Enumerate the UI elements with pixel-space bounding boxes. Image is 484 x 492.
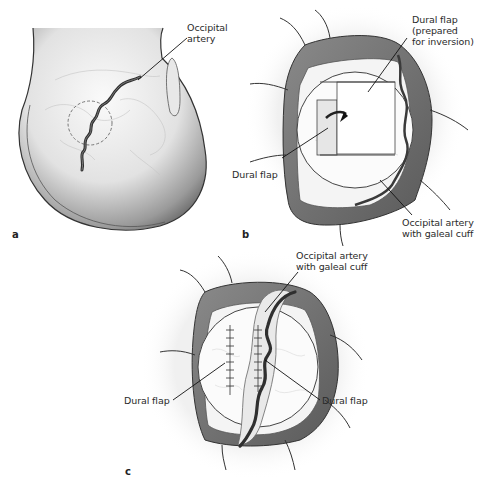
- label-line: Dural flap: [412, 14, 474, 25]
- label-dural-flap-prepared: Dural flap (prepared for inversion): [412, 14, 474, 47]
- label-line: (prepared: [412, 25, 474, 36]
- label-occipital-artery-c: Occipital artery with galeal cuff: [296, 250, 368, 272]
- label-dural-flap-b: Dural flap: [232, 169, 278, 180]
- label-line: Occipital artery: [296, 250, 368, 261]
- panel-a-head: [19, 28, 206, 230]
- label-line: artery: [187, 33, 228, 44]
- surgical-illustration-figure: Occipital artery a Dural flap (prepared …: [0, 0, 484, 492]
- label-dural-flap-right: Dural flap: [322, 395, 368, 406]
- label-line: with galeal cuff: [402, 228, 474, 239]
- panel-letter-b: b: [242, 229, 249, 240]
- label-occipital-artery-b: Occipital artery with galeal cuff: [402, 217, 474, 239]
- panel-letter-c: c: [125, 466, 131, 477]
- illustration-artwork: [0, 0, 484, 492]
- panel-c-closure: [140, 250, 370, 480]
- label-line: Dural flap: [322, 395, 368, 406]
- label-line: Dural flap: [232, 169, 278, 180]
- label-dural-flap-left: Dural flap: [124, 395, 170, 406]
- label-occipital-artery-a: Occipital artery: [187, 22, 228, 44]
- label-line: Dural flap: [124, 395, 170, 406]
- label-line: with galeal cuff: [296, 261, 368, 272]
- label-line: for inversion): [412, 36, 474, 47]
- panel-letter-a: a: [12, 229, 19, 240]
- label-line: Occipital: [187, 22, 228, 33]
- label-line: Occipital artery: [402, 217, 474, 228]
